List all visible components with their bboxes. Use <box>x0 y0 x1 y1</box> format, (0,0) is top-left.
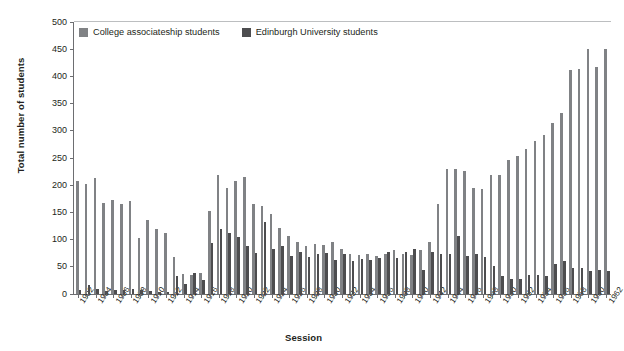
y-tick-line <box>70 185 74 186</box>
legend-item[interactable]: Edinburgh University students <box>242 27 378 37</box>
bar-edinburgh-university <box>325 253 328 294</box>
bar-edinburgh-university <box>501 276 504 294</box>
bar-edinburgh-university <box>545 276 548 294</box>
bar-edinburgh-university <box>202 280 205 294</box>
x-tick-line <box>316 294 317 298</box>
x-tick-line <box>228 294 229 298</box>
bar-edinburgh-university <box>440 254 443 294</box>
bar-edinburgh-university <box>149 291 152 294</box>
x-tick-line <box>298 294 299 298</box>
x-tick-line <box>342 294 343 298</box>
bar-edinburgh-university <box>158 292 161 294</box>
x-tick-line <box>518 294 519 298</box>
plot-top-rule <box>74 21 611 22</box>
bar-edinburgh-university <box>193 273 196 294</box>
x-tick-line <box>527 294 528 298</box>
x-tick-line <box>122 294 123 298</box>
bar-edinburgh-university <box>105 291 108 294</box>
y-tick-label: 350 <box>52 97 67 109</box>
plot-area: 050100150200250300350400450500 190219041… <box>73 22 611 295</box>
bar-edinburgh-university <box>581 268 584 294</box>
x-tick-line <box>289 294 290 298</box>
x-tick-line <box>87 294 88 298</box>
bar-college-associateship <box>111 200 114 294</box>
bar-college-associateship <box>129 201 132 294</box>
x-tick-line <box>280 294 281 298</box>
bar-college-associateship <box>155 229 158 294</box>
x-tick-line <box>175 294 176 298</box>
y-tick-line <box>70 266 74 267</box>
legend-item[interactable]: College associateship students <box>79 27 220 37</box>
bar-edinburgh-university <box>255 253 258 294</box>
y-tick-label: 400 <box>52 70 67 82</box>
bar-edinburgh-university <box>246 246 249 294</box>
bar-edinburgh-university <box>361 259 364 294</box>
bar-college-associateship <box>146 220 149 294</box>
y-tick-label: 250 <box>52 152 67 164</box>
y-tick-line <box>70 130 74 131</box>
y-tick-label: 200 <box>52 179 67 191</box>
y-tick-label: 500 <box>52 16 67 28</box>
bar-edinburgh-university <box>537 275 540 294</box>
bar-edinburgh-university <box>140 290 143 294</box>
y-tick-line <box>70 103 74 104</box>
x-tick-line <box>492 294 493 298</box>
x-tick-line <box>562 294 563 298</box>
bar-edinburgh-university <box>88 285 91 294</box>
bar-college-associateship <box>164 233 167 294</box>
x-tick-line <box>245 294 246 298</box>
bar-edinburgh-university <box>317 254 320 294</box>
bar-edinburgh-university <box>466 256 469 294</box>
bar-college-associateship <box>516 156 519 294</box>
bar-edinburgh-university <box>369 260 372 294</box>
x-tick-line <box>386 294 387 298</box>
x-tick-line <box>104 294 105 298</box>
y-tick-line <box>70 76 74 77</box>
bar-edinburgh-university <box>237 237 240 294</box>
x-tick-line <box>597 294 598 298</box>
bar-edinburgh-university <box>79 290 82 294</box>
x-tick-line <box>210 294 211 298</box>
bar-edinburgh-university <box>343 254 346 294</box>
x-tick-line <box>192 294 193 298</box>
x-tick-line <box>439 294 440 298</box>
bar-edinburgh-university <box>184 284 187 294</box>
x-tick-line <box>351 294 352 298</box>
bar-college-associateship <box>85 184 88 294</box>
x-tick-line <box>263 294 264 298</box>
bar-edinburgh-university <box>176 276 179 294</box>
x-tick-line <box>421 294 422 298</box>
x-tick-line <box>465 294 466 298</box>
bar-edinburgh-university <box>431 252 434 294</box>
bar-edinburgh-university <box>493 266 496 294</box>
bar-edinburgh-university <box>598 270 601 294</box>
x-tick-line <box>201 294 202 298</box>
bar-edinburgh-university <box>211 243 214 294</box>
y-tick-label: 100 <box>52 233 67 245</box>
bar-edinburgh-university <box>220 229 223 294</box>
bar-edinburgh-university <box>387 252 390 294</box>
y-tick-label: 50 <box>57 260 67 272</box>
y-axis-title: Total number of students <box>15 46 26 186</box>
x-tick-line <box>333 294 334 298</box>
x-axis-title: Session <box>285 332 322 343</box>
bar-college-associateship <box>578 69 581 294</box>
bar-edinburgh-university <box>457 236 460 294</box>
y-tick-label: 150 <box>52 206 67 218</box>
bar-edinburgh-university <box>563 261 566 294</box>
bar-college-associateship <box>587 49 590 294</box>
x-tick-line <box>474 294 475 298</box>
bar-edinburgh-university <box>123 290 126 294</box>
bar-college-associateship <box>138 238 141 294</box>
bar-edinburgh-university <box>132 289 135 294</box>
bar-edinburgh-university <box>167 292 170 294</box>
y-tick-label: 0 <box>62 288 67 300</box>
bar-edinburgh-university <box>519 279 522 294</box>
bar-edinburgh-university <box>528 275 531 294</box>
bar-college-associateship <box>595 67 598 294</box>
y-tick-line <box>70 22 74 23</box>
x-tick-line <box>580 294 581 298</box>
bar-college-associateship <box>120 204 123 294</box>
x-tick-line <box>404 294 405 298</box>
bar-edinburgh-university <box>114 290 117 294</box>
